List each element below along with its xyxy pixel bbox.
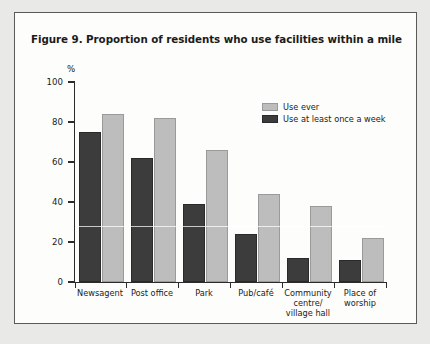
scan-line-artifact bbox=[75, 226, 388, 227]
legend-swatch-use-ever-icon bbox=[262, 103, 278, 111]
y-tick-label-20: 20 bbox=[29, 237, 63, 247]
bar-pub-cafe-ever bbox=[258, 194, 280, 282]
y-tick-80 bbox=[68, 121, 74, 122]
legend-label-use-ever: Use ever bbox=[283, 102, 319, 112]
x-category-label-park: Park bbox=[175, 288, 233, 298]
y-tick-100 bbox=[68, 81, 74, 82]
x-category-label-place-of-worship-line2: worship bbox=[331, 298, 389, 308]
bar-place-of-worship-weekly bbox=[339, 260, 361, 282]
y-tick-label-100: 100 bbox=[29, 77, 63, 87]
y-tick-40 bbox=[68, 201, 74, 202]
bar-pub-cafe-weekly bbox=[235, 234, 257, 282]
y-axis-line bbox=[74, 81, 75, 283]
x-category-label-community-centre: Community centre/ village hall bbox=[279, 288, 337, 318]
y-tick-label-0: 0 bbox=[29, 277, 63, 287]
x-category-label-community-centre-line2: centre/ bbox=[279, 298, 337, 308]
chart-legend: Use ever Use at least once a week bbox=[262, 101, 386, 125]
y-tick-label-40: 40 bbox=[29, 197, 63, 207]
x-category-label-place-of-worship-line1: Place of bbox=[331, 288, 389, 298]
legend-swatch-use-weekly-icon bbox=[262, 115, 278, 123]
y-tick-20 bbox=[68, 241, 74, 242]
figure-frame: Figure 9. Proportion of residents who us… bbox=[14, 12, 417, 324]
bar-chart-plot-area: % 100 80 60 40 20 0 bbox=[15, 13, 418, 325]
y-tick-60 bbox=[68, 161, 74, 162]
y-tick-label-60: 60 bbox=[29, 157, 63, 167]
x-category-label-pub-cafe: Pub/café bbox=[227, 288, 285, 298]
y-axis-unit-label: % bbox=[67, 64, 75, 74]
x-category-label-community-centre-line3: village hall bbox=[279, 308, 337, 318]
legend-item-use-weekly: Use at least once a week bbox=[262, 113, 386, 124]
bar-post-office-ever bbox=[154, 118, 176, 282]
bar-park-weekly bbox=[183, 204, 205, 282]
bar-community-centre-ever bbox=[310, 206, 332, 282]
bar-newsagent-ever bbox=[102, 114, 124, 282]
bar-park-ever bbox=[206, 150, 228, 282]
bar-place-of-worship-ever bbox=[362, 238, 384, 282]
x-category-label-community-centre-line1: Community bbox=[279, 288, 337, 298]
bar-newsagent-weekly bbox=[79, 132, 101, 282]
bar-community-centre-weekly bbox=[287, 258, 309, 282]
legend-label-use-weekly: Use at least once a week bbox=[283, 114, 386, 124]
y-tick-0 bbox=[68, 281, 74, 282]
x-category-label-place-of-worship: Place of worship bbox=[331, 288, 389, 308]
bar-post-office-weekly bbox=[131, 158, 153, 282]
x-category-label-newsagent: Newsagent bbox=[71, 288, 129, 298]
legend-item-use-ever: Use ever bbox=[262, 101, 386, 112]
y-tick-label-80: 80 bbox=[29, 117, 63, 127]
x-category-label-post-office: Post office bbox=[123, 288, 181, 298]
